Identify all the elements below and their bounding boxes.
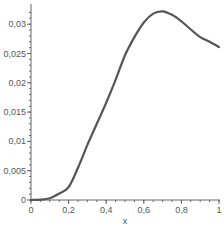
x-tick-label: 0,2 [62,205,75,215]
y-tick-label: 0 [21,195,26,205]
y-tick-label: 0,025 [3,49,26,59]
x-tick-label: 0 [28,205,33,215]
x-tick-label: 0,4 [100,205,113,215]
x-axis-label: x [123,216,128,226]
x-tick-label: 1 [216,205,221,215]
line-chart: 00,0050,010,0150,020,0250,03 00,20,40,60… [0,0,224,230]
y-tick-label: 0,03 [8,19,26,29]
x-axis: 00,20,40,60,81 [28,200,221,215]
y-axis: 00,0050,010,0150,020,0250,03 [3,4,31,205]
y-tick-label: 0,005 [3,166,26,176]
data-series [31,11,219,200]
y-tick-label: 0,02 [8,78,26,88]
x-tick-label: 0,8 [175,205,188,215]
y-tick-label: 0,01 [8,136,26,146]
series-line [31,11,219,200]
x-tick-label: 0,6 [138,205,151,215]
y-tick-label: 0,015 [3,107,26,117]
